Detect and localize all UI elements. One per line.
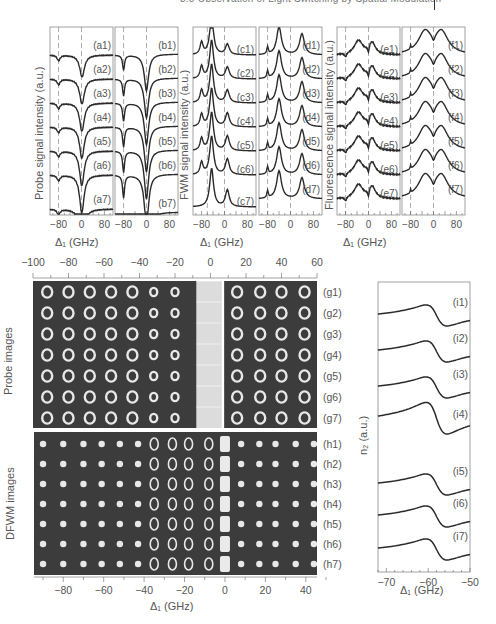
series-label: (d2) — [302, 64, 320, 75]
dfwm-spot — [117, 461, 123, 467]
dfwm-spot — [117, 561, 123, 567]
dfwm-spot — [80, 521, 86, 527]
dfwm-spot — [98, 521, 104, 527]
tick-label: −60 — [95, 584, 113, 596]
dfwm-spot — [238, 521, 244, 527]
dfwm-spot — [117, 541, 123, 547]
row-label: (g7) — [323, 412, 342, 424]
dfwm-spot — [135, 441, 141, 447]
dfwm-spot — [238, 501, 244, 507]
dfwm-spot — [40, 561, 46, 567]
series-label: (c6) — [237, 164, 254, 175]
series-label: (d4) — [302, 112, 320, 123]
series-label: (a5) — [93, 136, 111, 147]
xlabel-h: Δ₁ (GHz) — [150, 600, 193, 612]
xlabel-ef: Δ₁ (GHz) — [343, 236, 386, 248]
xlabel-ab: Δ₁ (GHz) — [55, 236, 98, 248]
dfwm-spot — [40, 441, 46, 447]
series-label: (a1) — [93, 40, 111, 51]
probe-images-label: Probe images — [2, 327, 14, 395]
dfwm-spot — [311, 521, 317, 527]
series-label: (c2) — [237, 68, 254, 79]
tick-label: 20 — [240, 256, 252, 268]
tick-label: −80 — [337, 219, 354, 230]
dfwm-spot — [272, 461, 278, 467]
tick-label: −40 — [135, 584, 153, 596]
dfwm-spot — [256, 521, 262, 527]
dfwm-spot — [135, 541, 141, 547]
series-label: (e1) — [380, 44, 398, 55]
tick-label: −80 — [50, 219, 67, 230]
series-label: (f2) — [448, 64, 463, 75]
tick-label: 60 — [311, 256, 323, 268]
dfwm-spot — [117, 521, 123, 527]
dfwm-spot — [220, 476, 230, 492]
series-label: (i4) — [453, 408, 468, 420]
separator — [221, 281, 224, 428]
series-label: (f1) — [448, 40, 463, 51]
row-label: (h6) — [323, 538, 342, 550]
dfwm-spot — [40, 501, 46, 507]
series-label: (a6) — [93, 160, 111, 171]
dfwm-spot — [117, 501, 123, 507]
dfwm-spot — [272, 521, 278, 527]
tick-label: 80 — [99, 219, 111, 230]
dfwm-image-grid: (h1)(h2)(h3)(h4)(h5)(h6)(h7)−80−60−40−20… — [34, 432, 342, 596]
series-label: (e4) — [380, 116, 398, 127]
dfwm-spot — [98, 461, 104, 467]
dfwm-spot — [98, 541, 104, 547]
dfwm-spot — [311, 461, 317, 467]
series-label: (f7) — [448, 184, 463, 195]
series-label: (d1) — [302, 40, 320, 51]
row-label: (h3) — [323, 478, 342, 490]
series-label: (c5) — [237, 140, 254, 151]
row-label: (g5) — [323, 370, 342, 382]
series-label: (b4) — [158, 112, 176, 123]
dfwm-spot — [40, 521, 46, 527]
series-label: (e7) — [380, 188, 398, 199]
dfwm-spot — [40, 461, 46, 467]
series-label: (e2) — [380, 68, 398, 79]
dfwm-spot — [60, 441, 66, 447]
dfwm-spot — [135, 561, 141, 567]
row-label: (g6) — [323, 391, 342, 403]
series-label: (i7) — [453, 530, 468, 542]
tick-label: 80 — [386, 219, 398, 230]
series-label: (d5) — [302, 136, 320, 147]
dfwm-spot — [311, 541, 317, 547]
panel-c: −80080(c1)(c2)(c3)(c4)(c5)(c6)(c7) — [193, 27, 256, 230]
series-label: (b1) — [158, 40, 176, 51]
series-label: (i2) — [453, 332, 468, 344]
dfwm-spot — [272, 481, 278, 487]
series-label: (c7) — [237, 196, 254, 207]
tick-label: −80 — [54, 584, 72, 596]
dfwm-spot — [311, 441, 317, 447]
n2-curve — [378, 305, 470, 326]
series-label: (a2) — [93, 64, 111, 75]
tick-label: 40 — [276, 256, 288, 268]
xlabel-i: Δ₁ (GHz) — [400, 584, 443, 596]
dfwm-spot — [60, 561, 66, 567]
dfwm-spot — [238, 461, 244, 467]
tick-label: 40 — [300, 584, 312, 596]
series-label: (f3) — [448, 88, 463, 99]
dfwm-spot — [311, 481, 317, 487]
dfwm-spot — [256, 461, 262, 467]
tick-label: 80 — [164, 219, 176, 230]
series-label: (f4) — [448, 112, 463, 123]
series-label: (e5) — [380, 140, 398, 151]
tick-label: −20 — [166, 256, 184, 268]
tick-label: 0 — [288, 219, 294, 230]
panel-f: −80080(f1)(f2)(f3)(f4)(f5)(f6)(f7) — [402, 27, 465, 230]
dfwm-spot — [220, 536, 230, 552]
row-label: (g3) — [323, 328, 342, 340]
dfwm-spot — [272, 501, 278, 507]
n2-ylabel: n₂ (a.u.) — [357, 416, 369, 455]
dfwm-spot — [60, 481, 66, 487]
n2-curve — [378, 474, 470, 495]
row-label: (g4) — [323, 349, 342, 361]
dfwm-spot — [256, 561, 262, 567]
n2-curve — [378, 341, 470, 362]
tick-label: 0 — [366, 219, 372, 230]
series-label: (d6) — [302, 160, 320, 171]
